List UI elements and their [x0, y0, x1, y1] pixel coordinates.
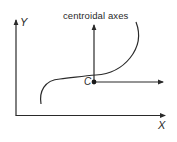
centroid-label: C	[84, 77, 91, 87]
x-axis-label: X	[158, 120, 165, 131]
centroid-point	[92, 80, 97, 85]
centroidal-axes-diagram: centroidal axes Y X C	[0, 0, 177, 142]
s-shaped-curve	[41, 22, 139, 104]
y-axis-label: Y	[20, 17, 27, 28]
diagram-title: centroidal axes	[63, 11, 128, 21]
